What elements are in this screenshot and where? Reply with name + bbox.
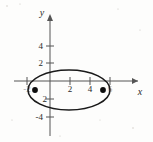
x-axis-label: x [137,86,143,97]
x-tick-label-4: 4 [88,84,93,94]
y-tick-label-4: 4 [39,41,44,51]
ellipse-coordinate-figure: -2 2 4 6 4 2 2 -4 y x [0,0,153,142]
x-tick-label-neg2: -2 [23,84,31,94]
coordinate-plane-svg: -2 2 4 6 4 2 2 -4 y x [0,0,153,142]
x-tick-label-2: 2 [68,84,73,94]
y-axis-label: y [39,7,45,18]
y-axis-arrowhead [47,14,53,21]
y-tick-label-neg2: 2 [43,94,48,104]
x-axis-arrowhead [132,78,138,84]
focus-point-right [100,87,106,93]
x-tick-label-6: 6 [108,84,113,94]
y-tick-label-2: 2 [39,58,44,68]
y-tick-label-neg4: -4 [36,112,44,122]
y-axis [47,14,53,136]
focus-point-left [32,87,38,93]
